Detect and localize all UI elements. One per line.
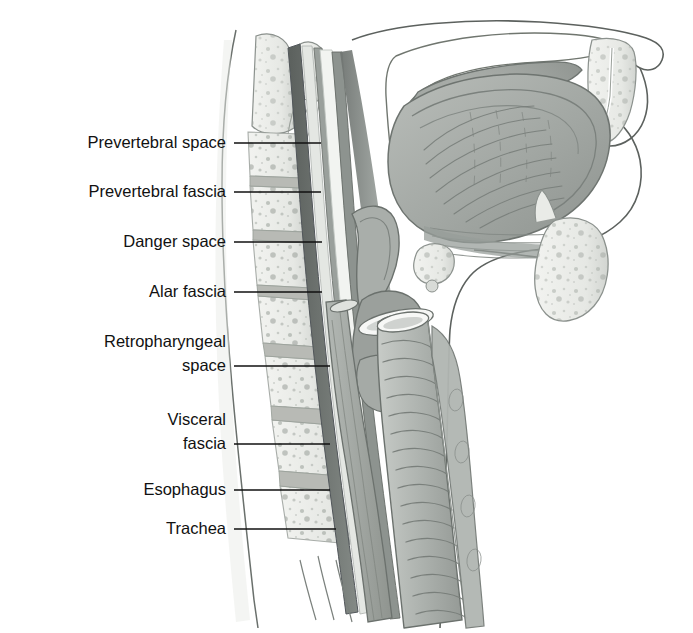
label-prevertebral-fascia: Prevertebral fascia — [88, 182, 226, 200]
label-retropharyngeal-space-line1: Retropharyngeal — [104, 332, 226, 350]
label-alar-fascia: Alar fascia — [149, 282, 227, 300]
label-retropharyngeal-space-line2: space — [182, 356, 226, 374]
label-danger-space: Danger space — [123, 232, 226, 250]
label-prevertebral-space: Prevertebral space — [88, 133, 227, 151]
sagittal-neck-diagram: Prevertebral space Prevertebral fascia D… — [0, 0, 693, 633]
label-visceral-fascia-line2: fascia — [183, 434, 227, 452]
label-visceral-fascia-line1: Visceral — [168, 410, 226, 428]
label-esophagus: Esophagus — [143, 480, 226, 498]
label-trachea: Trachea — [166, 519, 227, 537]
anatomical-figure: Prevertebral space Prevertebral fascia D… — [0, 0, 693, 633]
